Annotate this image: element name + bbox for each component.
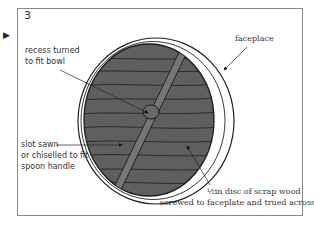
faceplace-leader (224, 47, 247, 70)
label-slot-line3: spoon handle (21, 161, 75, 172)
label-disc-line1: ½in disc of scrap wood (207, 186, 301, 197)
label-disc-line2: screwed to faceplate and trued across (160, 197, 314, 208)
label-slot-line1: slot sawn (21, 139, 59, 150)
label-faceplace: faceplace (235, 33, 274, 44)
label-slot-line2: or chiselled to fit (21, 150, 88, 161)
label-recess-line1: recess turned (25, 45, 80, 56)
label-recess-line2: to fit bowl (25, 56, 65, 67)
